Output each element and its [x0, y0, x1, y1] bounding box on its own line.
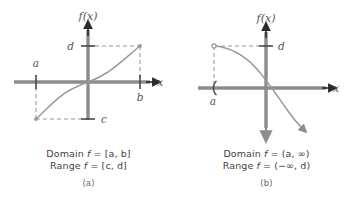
figure-pair-domain-range: f(x) x d c a b Domain f = [a, b] Range f…	[0, 0, 355, 204]
caption-domain-a: Domain f = [a, b]	[0, 148, 177, 160]
figure-panel-a: f(x) x d c a b Domain f = [a, b] Range f…	[0, 0, 177, 204]
caption-range-b-suffix: = (−∞, d)	[260, 160, 310, 171]
caption-domain-b-suffix: = (a, ∞)	[267, 148, 309, 159]
x-axis-label-a: x	[157, 76, 164, 89]
tick-label-d-b: d	[278, 40, 285, 52]
caption-range-b-prefix: Range	[223, 160, 257, 171]
figure-panel-b: f(x) x d a Domain f = (a, ∞) Range f = (…	[178, 0, 355, 204]
curve-open-endpoint-b	[212, 44, 216, 48]
tick-label-b-a: b	[137, 91, 144, 103]
caption-range-a-prefix: Range	[50, 160, 84, 171]
caption-range-a: Range f = [c, d]	[0, 160, 177, 172]
tick-label-d-a: d	[67, 40, 74, 52]
caption-domain-a-suffix: = [a, b]	[90, 148, 130, 159]
curve-endpoint-lower-a	[34, 117, 38, 121]
plot-area-b: f(x) x d a	[178, 0, 355, 150]
tick-label-c-a: c	[101, 113, 107, 125]
y-axis-label-b: f(x)	[256, 12, 276, 25]
caption-range-b: Range f = (−∞, d)	[178, 160, 355, 172]
caption-range-a-suffix: = [c, d]	[87, 160, 127, 171]
caption-domain-b-prefix: Domain	[223, 148, 264, 159]
panel-tag-a: (a)	[0, 177, 177, 189]
curve-endpoint-upper-a	[138, 44, 142, 48]
plot-area-a: f(x) x d c a b	[0, 0, 177, 150]
tick-label-a-a: a	[33, 57, 39, 69]
x-axis-label-b: x	[333, 82, 340, 95]
y-axis-label-a: f(x)	[78, 10, 98, 23]
tick-label-a-b: a	[210, 95, 216, 107]
panel-tag-b: (b)	[178, 177, 355, 189]
caption-domain-a-prefix: Domain	[46, 148, 87, 159]
dashed-guides-b	[214, 46, 266, 88]
caption-domain-b: Domain f = (a, ∞)	[178, 148, 355, 160]
